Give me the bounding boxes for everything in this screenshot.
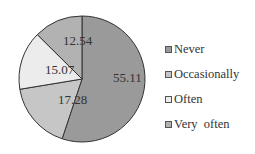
legend-item-often: Often [165,87,239,112]
legend-label-often: Often [174,92,202,107]
legend-item-never: Never [165,37,239,62]
slice-label-occasionally: 17.28 [58,92,87,107]
slice-label-very-often: 12.54 [63,33,93,48]
legend-swatch-very-often [165,121,172,128]
legend-swatch-often [165,96,172,103]
legend-item-occasionally: Occasionally [165,62,239,87]
legend-item-very-often: Very often [165,112,239,137]
legend-swatch-occasionally [165,71,172,78]
legend-swatch-never [165,46,172,53]
legend-label-occasionally: Occasionally [174,67,239,82]
legend-label-very-often: Very often [174,117,230,132]
legend: Never Occasionally Often Very often [165,37,239,137]
slice-label-often: 15.07 [45,62,75,77]
slice-label-never: 55.11 [113,70,142,85]
legend-label-never: Never [174,42,205,57]
